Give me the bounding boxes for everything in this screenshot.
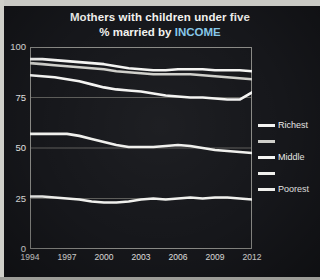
x-axis-tick-label: 2003 bbox=[132, 252, 151, 262]
x-axis-tick-label: 2000 bbox=[95, 252, 114, 262]
series-line-4 bbox=[30, 134, 252, 153]
series-line-3 bbox=[30, 75, 252, 99]
y-axis-tick-label: 25 bbox=[15, 194, 26, 204]
series-lines bbox=[30, 59, 252, 202]
legend-label: Middle bbox=[278, 150, 305, 164]
legend-swatch bbox=[258, 140, 275, 143]
legend-swatch bbox=[258, 172, 275, 175]
legend-label: Poorest bbox=[278, 182, 309, 196]
chart-title: Mothers with children under five bbox=[0, 10, 320, 24]
legend-label: Richest bbox=[278, 118, 308, 132]
legend-swatch bbox=[258, 156, 275, 159]
chart-subtitle: % married by INCOME bbox=[0, 25, 320, 39]
legend-swatch bbox=[258, 188, 275, 191]
y-axis-tick-label: 75 bbox=[15, 93, 26, 103]
x-axis-tick-label: 2006 bbox=[169, 252, 188, 262]
legend-item bbox=[258, 134, 320, 150]
y-axis: 1007550250 bbox=[0, 40, 28, 256]
scan-edge-top bbox=[0, 0, 320, 6]
scan-edge-left bbox=[0, 0, 4, 280]
series-line-5 bbox=[30, 196, 252, 202]
chart-legend: RichestMiddlePoorest bbox=[258, 118, 320, 198]
x-axis-tick-label: 1997 bbox=[58, 252, 77, 262]
legend-swatch bbox=[258, 124, 275, 127]
line-chart-svg bbox=[30, 47, 252, 249]
x-axis-tick-label: 2012 bbox=[243, 252, 262, 262]
chart-container: Mothers with children under five % marri… bbox=[0, 0, 320, 280]
plot-area bbox=[30, 47, 252, 249]
legend-item: Middle bbox=[258, 150, 320, 166]
legend-item: Poorest bbox=[258, 182, 320, 198]
legend-item bbox=[258, 166, 320, 182]
x-axis-tick-label: 2009 bbox=[206, 252, 225, 262]
chart-subtitle-accent: INCOME bbox=[175, 26, 221, 38]
chart-title-block: Mothers with children under five % marri… bbox=[0, 10, 320, 39]
x-axis-tick-label: 1994 bbox=[21, 252, 40, 262]
chart-subtitle-prefix: % married by bbox=[99, 26, 174, 38]
x-axis: 1994199720002003200620092012 bbox=[30, 252, 252, 268]
y-axis-tick-label: 50 bbox=[15, 143, 26, 153]
y-axis-tick-label: 100 bbox=[10, 42, 26, 52]
legend-item: Richest bbox=[258, 118, 320, 134]
